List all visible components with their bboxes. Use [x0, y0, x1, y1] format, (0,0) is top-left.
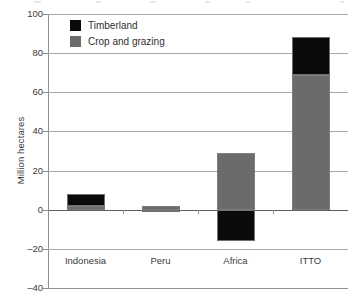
legend: Timberland Crop and grazing [70, 18, 165, 50]
y-tick-mark [43, 14, 48, 15]
bar-segment-timberland-indonesia [67, 194, 105, 206]
y-tick-mark [43, 53, 48, 54]
y-tick-label: 100 [3, 9, 43, 19]
y-tick-mark [43, 288, 48, 289]
bar-segment-crop-and-grazing-itto [292, 75, 330, 210]
y-tick-label: 0 [3, 205, 43, 215]
plot-area: 100806040200–20–40 IndonesiaPeruAfricaIT… [48, 14, 348, 288]
legend-swatch-timberland [70, 20, 81, 31]
y-tick-mark [43, 249, 48, 250]
legend-swatch-crop-and-grazing [70, 36, 81, 47]
x-axis-label-peru: Peru [123, 255, 198, 266]
x-axis-label-indonesia: Indonesia [48, 255, 123, 266]
bar-group-peru [142, 14, 180, 288]
x-tick-mark [273, 210, 274, 214]
bar-chart: Million hectares 100806040200–20–40 Indo… [0, 0, 351, 301]
bar-segment-timberland-peru [142, 210, 180, 212]
bar-segment-timberland-africa [217, 210, 255, 241]
gridline-neg40 [48, 288, 348, 289]
y-tick-label: 40 [3, 126, 43, 136]
x-axis-label-africa: Africa [198, 255, 273, 266]
y-tick-label: 20 [3, 166, 43, 176]
bar-segment-timberland-itto [292, 37, 330, 74]
y-tick-mark [43, 131, 48, 132]
bar-segment-crop-and-grazing-indonesia [67, 206, 105, 210]
bar-group-indonesia [67, 14, 105, 288]
legend-item-timberland: Timberland [70, 18, 165, 33]
y-tick-label: –40 [3, 283, 43, 293]
bar-group-itto [292, 14, 330, 288]
y-axis-title: Million hectares [14, 0, 28, 301]
y-tick-label: –20 [3, 244, 43, 254]
legend-label-timberland: Timberland [88, 20, 138, 31]
x-tick-mark [48, 210, 49, 214]
x-tick-mark [198, 210, 199, 214]
x-tick-mark [123, 210, 124, 214]
y-tick-mark [43, 171, 48, 172]
bar-group-africa [217, 14, 255, 288]
y-tick-label: 80 [3, 48, 43, 58]
legend-item-crop-and-grazing: Crop and grazing [70, 34, 165, 49]
y-tick-label: 60 [3, 87, 43, 97]
bar-segment-crop-and-grazing-africa [217, 153, 255, 210]
x-axis-label-itto: ITTO [273, 255, 348, 266]
clipped-caption-artifact [0, 0, 351, 5]
legend-label-crop-and-grazing: Crop and grazing [88, 36, 165, 47]
y-tick-mark [43, 92, 48, 93]
